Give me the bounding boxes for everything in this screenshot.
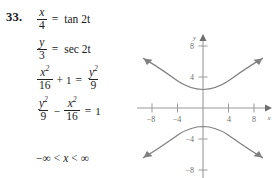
y-tick-label: 8 (190, 42, 194, 51)
constant-one: 1 (95, 105, 101, 117)
fraction-x2-16: x2 16 (37, 67, 53, 91)
fraction-denominator: 16 (37, 79, 53, 92)
plus-sign: + (57, 74, 64, 86)
equation-y-over-3: y 3 = sec 2t (36, 34, 140, 64)
x-tick-label: 8 (252, 115, 256, 124)
fraction-denominator: 3 (37, 49, 47, 62)
y-tick-label: 4 (190, 73, 194, 82)
equation-implicit-2: y2 9 − x2 16 = 1 (36, 95, 140, 126)
fraction-numerator: y (37, 37, 46, 49)
fraction-denominator: 9 (39, 110, 49, 123)
x-axis-label: x (266, 114, 271, 122)
secant-expression: sec 2t (64, 43, 91, 55)
problem-number: 33. (6, 10, 22, 25)
fraction-y2-9: y2 9 (37, 98, 50, 122)
graph-svg: −8 −4 4 8 8 4 −4 −8 y x (133, 0, 275, 178)
fraction-numerator: x2 (38, 67, 51, 79)
fraction-denominator: 16 (64, 110, 80, 123)
y-tick-label: −4 (185, 135, 194, 144)
equation-list: x 4 = tan 2t y 3 = sec 2t x2 16 + 1 = (36, 4, 140, 126)
curve-arrow-upper-left-icon (144, 58, 153, 65)
fraction-x-4: x 4 (37, 7, 47, 31)
equals-sign: = (85, 105, 92, 117)
curve-arrow-upper-right-icon (254, 58, 263, 65)
domain-relation-right: < (71, 152, 78, 164)
tangent-expression: tan 2t (64, 13, 90, 25)
curve-arrow-lower-right-icon (254, 151, 263, 158)
x-axis-arrow-icon (265, 105, 272, 112)
fraction-denominator: 4 (37, 19, 47, 32)
x-tick-label: −4 (173, 115, 182, 124)
equals-sign: = (52, 43, 59, 55)
x-tick-label: −8 (147, 115, 156, 124)
fraction-numerator: x (37, 7, 46, 19)
equation-x-over-4: x 4 = tan 2t (36, 4, 140, 34)
fraction-y2-9: y2 9 (87, 67, 100, 91)
axes-group (137, 34, 272, 178)
fraction-x2-16: x2 16 (64, 98, 80, 122)
y-axis-arrow-icon (200, 34, 207, 41)
fraction-numerator: y2 (37, 98, 50, 110)
domain-variable: x (63, 152, 68, 164)
curve-arrow-lower-left-icon (144, 151, 153, 158)
domain-upper-bound: ∞ (81, 152, 89, 164)
problem-statement: 33. x 4 = tan 2t y 3 = sec 2t x2 16 (0, 0, 140, 178)
minus-sign: − (54, 105, 61, 117)
y-tick-label: −8 (185, 166, 194, 175)
x-tick-label: 4 (227, 115, 231, 124)
fraction-numerator: x2 (66, 98, 79, 110)
equals-sign: = (76, 74, 83, 86)
equation-implicit-1: x2 16 + 1 = y2 9 (36, 64, 140, 95)
equals-sign: = (52, 13, 59, 25)
domain-relation-left: < (54, 152, 61, 164)
constant-one: 1 (66, 74, 72, 86)
domain-line: −∞<x<∞ (36, 152, 89, 164)
fraction-numerator: y2 (87, 67, 100, 79)
domain-lower-bound: −∞ (36, 152, 51, 164)
fraction-y-3: y 3 (37, 37, 47, 61)
hyperbola-graph: −8 −4 4 8 8 4 −4 −8 y x (133, 0, 275, 178)
fraction-denominator: 9 (89, 79, 99, 92)
y-axis-label: y (192, 34, 197, 42)
